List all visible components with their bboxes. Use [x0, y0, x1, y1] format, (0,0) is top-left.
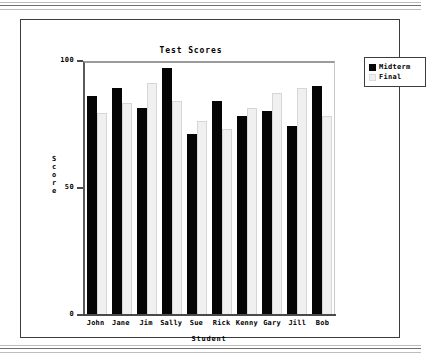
x-axis-title: Student [83, 335, 335, 343]
legend-item-midterm: Midterm [369, 62, 421, 72]
page-divider-bottom-3 [0, 352, 421, 353]
bar-final-rick [222, 129, 232, 315]
legend-label-final: Final [379, 73, 402, 81]
page-divider-top-2 [0, 5, 421, 6]
x-tick-label-jane: Jane [108, 319, 133, 327]
bar-group [284, 63, 309, 315]
bar-midterm-jill [287, 126, 297, 315]
bar-group [135, 63, 160, 315]
bar-group [110, 63, 135, 315]
bar-final-jim [147, 83, 157, 315]
page-divider-bottom-1 [0, 345, 421, 346]
plot-area [83, 61, 335, 315]
bar-midterm-gary [262, 111, 272, 315]
legend-swatch-midterm [369, 64, 376, 71]
legend-item-final: Final [369, 72, 421, 82]
bar-midterm-bob [312, 86, 322, 315]
x-tick-label-bob: Bob [310, 319, 335, 327]
bar-final-gary [272, 93, 282, 315]
bar-group [185, 63, 210, 315]
y-axis-title-char: S [49, 155, 59, 163]
chart-title: Test Scores [21, 46, 361, 55]
bar-midterm-john [87, 96, 97, 315]
bar-final-sally [172, 101, 182, 315]
bar-midterm-sue [187, 134, 197, 315]
bar-final-jane [122, 103, 132, 315]
bar-group [309, 63, 334, 315]
bar-final-john [97, 113, 107, 315]
bar-midterm-rick [212, 101, 222, 315]
x-tick-label-gary: Gary [259, 319, 284, 327]
bar-final-kenny [247, 108, 257, 315]
bar-group [234, 63, 259, 315]
x-axis-baseline [83, 314, 336, 316]
bar-midterm-sally [162, 68, 172, 315]
y-axis-title-char: o [49, 171, 59, 179]
bar-group [259, 63, 284, 315]
bar-midterm-jim [137, 108, 147, 315]
bar-midterm-kenny [237, 116, 247, 315]
bar-group [85, 63, 110, 315]
y-tick-label-0: 0 [49, 310, 74, 318]
bar-group [210, 63, 235, 315]
bars-layer [85, 63, 334, 315]
x-tick-label-jim: Jim [133, 319, 158, 327]
page-divider-top-3 [0, 9, 421, 10]
x-axis-labels: JohnJaneJimSallySueRickKennyGaryJillBob [83, 319, 335, 327]
bar-final-sue [197, 121, 207, 315]
x-tick-label-jill: Jill [285, 319, 310, 327]
bar-group [160, 63, 185, 315]
page-divider-top-1 [0, 2, 421, 3]
x-tick-label-john: John [83, 319, 108, 327]
x-tick-label-kenny: Kenny [234, 319, 259, 327]
figure-frame: Test Scores Score 100 50 0 JohnJaneJimSa… [20, 19, 400, 338]
y-axis-title-char: c [49, 163, 59, 171]
page-divider-bottom-2 [0, 348, 421, 349]
x-tick-label-sue: Sue [184, 319, 209, 327]
x-tick-label-rick: Rick [209, 319, 234, 327]
y-tick-label-100: 100 [49, 56, 74, 64]
chart-legend: MidtermFinal [364, 57, 426, 87]
y-tick-label-50: 50 [49, 183, 74, 191]
bar-final-bob [322, 116, 332, 315]
legend-label-midterm: Midterm [379, 63, 411, 71]
bar-midterm-jane [112, 88, 122, 315]
bar-final-jill [297, 88, 307, 315]
legend-swatch-final [369, 74, 376, 81]
x-tick-label-sally: Sally [159, 319, 184, 327]
